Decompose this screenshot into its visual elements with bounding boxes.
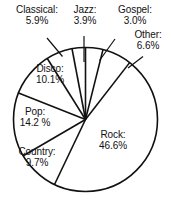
slice-label-gospel: Gospel: 3.0% — [110, 4, 160, 26]
slice-label-country: Country: 9.7% — [11, 146, 63, 168]
slice-label-jazz-value: 3.9% — [66, 15, 104, 26]
slice-label-rock-value: 46.6% — [92, 140, 134, 151]
slice-label-disco-name: Disco: — [29, 63, 71, 74]
slice-label-other: Other: 6.6% — [126, 29, 170, 51]
slice-label-classical-value: 5.9% — [4, 15, 70, 26]
slice-label-other-name: Other: — [126, 29, 170, 40]
slice-label-country-name: Country: — [11, 146, 63, 157]
slice-label-disco-value: 10.1% — [29, 74, 71, 85]
slice-label-rock-name: Rock: — [92, 129, 134, 140]
slice-label-pop-value: 14.2 % — [13, 117, 57, 128]
slice-label-other-value: 6.6% — [126, 40, 170, 51]
slice-label-jazz: Jazz: 3.9% — [66, 4, 104, 26]
slice-label-disco: Disco: 10.1% — [29, 63, 71, 85]
slice-label-gospel-name: Gospel: — [110, 4, 160, 15]
slice-label-jazz-name: Jazz: — [66, 4, 104, 15]
slice-label-pop-name: Pop: — [13, 106, 57, 117]
slice-label-pop: Pop: 14.2 % — [13, 106, 57, 128]
slice-label-country-value: 9.7% — [11, 157, 63, 168]
slice-label-classical-name: Classical: — [4, 4, 70, 15]
slice-label-classical: Classical: 5.9% — [4, 4, 70, 26]
pie-chart: Classical: 5.9% Jazz: 3.9% Gospel: 3.0% … — [0, 0, 172, 201]
slice-label-rock: Rock: 46.6% — [92, 129, 134, 151]
slice-label-gospel-value: 3.0% — [110, 15, 160, 26]
